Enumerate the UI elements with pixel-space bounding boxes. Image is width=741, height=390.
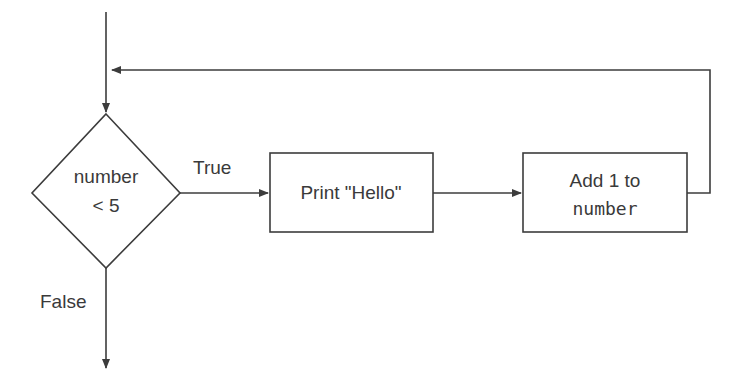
add-line1: Add 1 to — [570, 170, 641, 191]
add-box — [523, 153, 687, 232]
flowchart: number < 5 True Print "Hello" Add 1 to n… — [0, 0, 741, 390]
false-label: False — [40, 291, 86, 312]
decision-line1: number — [74, 166, 139, 187]
add-line2: number — [572, 198, 637, 219]
decision-diamond — [32, 114, 180, 268]
add-node: Add 1 to number — [523, 153, 687, 232]
print-node: Print "Hello" — [270, 153, 433, 232]
decision-line2: < 5 — [93, 195, 120, 216]
decision-node: number < 5 — [32, 114, 180, 268]
print-label: Print "Hello" — [300, 182, 401, 203]
true-label: True — [193, 157, 231, 178]
